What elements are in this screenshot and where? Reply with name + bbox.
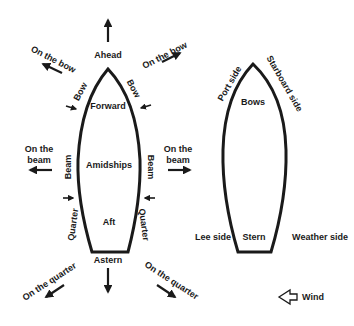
lee-side-label: Lee side [195, 232, 231, 242]
ahead-label: Ahead [94, 50, 122, 60]
on-the-quarter-left-label: On the quarter [21, 260, 79, 302]
boat-directions-diagram: Ahead Forward Amidships Aft Astern Bow B… [0, 0, 354, 326]
on-the-beam-left-label-line2: beam [27, 155, 51, 165]
beam-left-label: Beam [63, 155, 73, 180]
amidships-label: Amidships [86, 160, 132, 170]
right-boat-hull [223, 64, 286, 252]
wind-label: Wind [302, 292, 324, 302]
astern-label: Astern [94, 255, 123, 265]
weather-side-label: Weather side [292, 232, 348, 242]
on-the-beam-right-label-line1: On the [164, 144, 193, 154]
bows-label: Bows [241, 97, 265, 107]
wind-arrow-icon [279, 290, 297, 304]
forward-label: Forward [90, 101, 126, 111]
beam-right-label: Beam [146, 155, 156, 180]
quarter-right-label: Quarter [137, 208, 151, 242]
stern-label: Stern [242, 232, 265, 242]
starboard-side-label: Starboard side [265, 54, 305, 114]
on-the-beam-left-label-line1: On the [25, 144, 54, 154]
on-the-beam-right-label-line2: beam [166, 155, 190, 165]
aft-label: Aft [103, 217, 116, 227]
section-divider-ticks [63, 105, 155, 198]
quarter-left-label: Quarter [66, 207, 80, 241]
bow-left-label: Bow [71, 80, 89, 102]
on-the-bow-left-label: On the bow [29, 44, 78, 76]
on-the-bow-right-label: On the bow [141, 39, 190, 71]
